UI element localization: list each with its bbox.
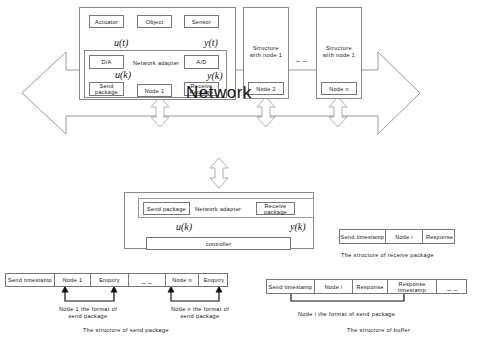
buffer-cell-response: Response: [353, 280, 388, 293]
buffer-caption: The structure of buffer: [347, 327, 410, 334]
object-box: Object: [137, 15, 172, 28]
noden-label-box: Node n: [321, 82, 357, 95]
node1-label-box: Node 1: [137, 84, 172, 97]
da-box: D/A: [89, 55, 124, 69]
u-k-label: u(k): [115, 69, 131, 80]
node1-adapter-label: Network adapter: [133, 60, 179, 67]
noden-structure-label: Structure with node 1: [320, 45, 358, 58]
controller-y-k-label: y(k): [290, 221, 306, 232]
u-t-label: u(t): [114, 37, 128, 48]
connector-layer: [0, 0, 481, 347]
node2-structure-label: Structure with node 1: [247, 45, 285, 58]
send-cell-enquiryn: Enquiry: [199, 274, 229, 286]
buffer-annotation: Node i the format of send package: [298, 311, 395, 318]
send-annotation-node1: Node 1 the format of send package: [56, 306, 120, 319]
send-cell-node1: Node 1: [55, 274, 91, 286]
send-package-row: Send timestamp Node 1 Enquiry _ _ Node n…: [5, 273, 228, 287]
receive-cell-response: Response: [423, 230, 456, 243]
actuator-box: Actuator: [89, 15, 124, 28]
node1-send-package-box: Send package: [89, 82, 124, 96]
receive-package-row: Send timestamp Node i Response: [339, 229, 455, 244]
controller-box: controller: [146, 237, 291, 250]
controller-adapter-label: Network adapter: [195, 206, 241, 213]
send-package-caption: The structure of send package: [83, 327, 169, 334]
controller-u-k-label: u(k): [176, 221, 192, 232]
buffer-cell-send-timestamp: Send timestamp: [267, 280, 315, 293]
controller-receive-package-box: Receive package: [256, 202, 295, 215]
buffer-row: Send timestamp Node i Response Response …: [266, 279, 467, 294]
y-k-label: y(k): [207, 70, 223, 81]
send-cell-send-timestamp: Send timestamp: [6, 274, 55, 286]
send-cell-noden: Node n: [166, 274, 199, 286]
buffer-cell-ellipsis: _ _: [437, 280, 468, 293]
receive-package-caption: The structure of receive package: [341, 252, 434, 259]
ad-box: A/D: [184, 55, 219, 69]
node2-label-box: Node 2: [248, 82, 284, 95]
buffer-cell-response-timestamp: Response timestamp: [388, 280, 437, 293]
send-cell-ellipsis: _ _: [129, 274, 166, 286]
controller-send-package-box: Send package: [143, 202, 190, 215]
y-t-label: y(t): [204, 37, 218, 48]
send-cell-enquiry1: Enquiry: [91, 274, 129, 286]
send-annotation-noden: Node n the format of send package: [168, 306, 232, 319]
receive-cell-send-timestamp: Send timestamp: [340, 230, 386, 243]
sensor-box: Sensor: [184, 15, 219, 28]
network-label: Network: [186, 84, 252, 102]
buffer-cell-node: Node i: [315, 280, 353, 293]
nodes-ellipsis: _ _: [296, 55, 307, 62]
link-arrow-controller: [210, 158, 228, 188]
receive-cell-node: Node i: [386, 230, 423, 243]
